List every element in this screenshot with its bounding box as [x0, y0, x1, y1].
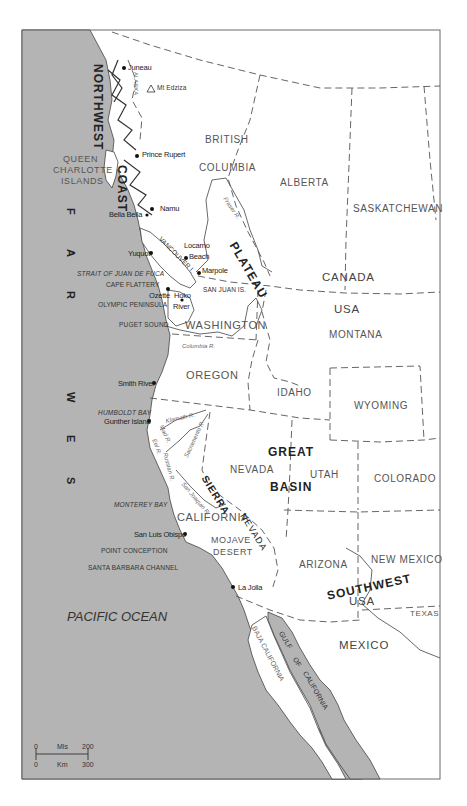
label-usa-south: USA — [349, 596, 375, 608]
marker-la-jolla — [231, 585, 235, 589]
far-west-letter-f: F — [65, 208, 76, 215]
label-san-juan-is: SAN JUAN IS. — [203, 287, 246, 294]
label-washington: WASHINGTON — [185, 320, 266, 331]
label-marpole: Marpole — [202, 267, 228, 275]
scale-miles-label: Mls — [57, 743, 68, 750]
label-texas: TEXAS — [410, 610, 439, 618]
label-namu: Namu — [160, 205, 179, 213]
label-yuquot: Yuquot — [128, 250, 150, 258]
marker-prince-rupert — [135, 154, 139, 158]
label-puget-sound: PUGET SOUND — [119, 322, 169, 329]
label-beach: Beach — [189, 253, 209, 261]
far-west-letter-s: S — [65, 477, 76, 484]
label-prince-rupert: Prince Rupert — [142, 151, 185, 159]
label-san-luis-obispo: San Luis Obispo — [134, 531, 186, 539]
label-coast: COAST — [116, 165, 128, 212]
label-colorado: COLORADO — [374, 474, 436, 484]
label-point-conception: POINT CONCEPTION — [101, 548, 168, 555]
scale-km-end: 300 — [82, 761, 94, 768]
label-mt-edziza: Mt Edziza — [157, 85, 186, 92]
label-british: BRITISH — [205, 135, 249, 145]
label-nevada: NEVADA — [230, 465, 274, 475]
label-strait-juan-de-fuca: STRAIT OF JUAN DE FUCA — [77, 271, 164, 278]
label-la-jolla: La Jolla — [238, 584, 262, 592]
label-northwest: NORTHWEST — [92, 64, 104, 150]
scale-miles-end: 200 — [82, 743, 94, 750]
far-west-letter-e: E — [65, 435, 76, 442]
label-hoko: Hoko — [174, 292, 191, 300]
label-alaska: ALASKA — [133, 72, 139, 95]
scale-miles-start: 0 — [34, 743, 38, 750]
label-mexico: MEXICO — [339, 640, 389, 652]
label-ozette: Ozette — [149, 292, 170, 300]
label-alberta: ALBERTA — [280, 178, 329, 188]
label-canada: CANADA — [322, 272, 375, 284]
marker-juneau — [122, 66, 126, 70]
label-utah: UTAH — [310, 470, 339, 480]
label-locarno: Locarno — [184, 242, 210, 250]
label-new-mexico: NEW MEXICO — [371, 555, 443, 565]
label-oregon: OREGON — [186, 370, 239, 381]
label-olympic-peninsula: OLYMPIC PENINSULA — [98, 302, 167, 309]
label-columbia-river: Columbia R. — [182, 343, 215, 349]
label-saskatchewan: SASKATCHEWAN — [353, 204, 443, 214]
label-charlotte: CHARLOTTE — [53, 166, 113, 175]
far-west-letter-w: W — [65, 392, 76, 402]
label-desert: DESERT — [213, 548, 253, 557]
label-pacific-ocean: PACIFIC OCEAN — [67, 610, 167, 623]
label-great: GREAT — [268, 446, 314, 458]
label-montana: MONTANA — [329, 330, 382, 340]
label-arizona: ARIZONA — [299, 560, 348, 570]
label-mojave: MOJAVE — [211, 536, 251, 545]
label-usa-north: USA — [334, 304, 360, 316]
label-juneau: Juneau — [128, 64, 151, 72]
label-gunther-island: Gunther Island — [104, 418, 150, 426]
label-idaho: IDAHO — [277, 388, 312, 398]
label-smith-river: Smith River — [118, 380, 155, 388]
label-bella-bella: Bella Bella — [109, 211, 142, 219]
marker-bella-bella — [145, 213, 148, 216]
label-river: River — [173, 303, 190, 311]
scale-km-label: Km — [57, 761, 68, 768]
label-queen: QUEEN — [63, 155, 98, 164]
far-west-letter-r: R — [65, 291, 76, 299]
label-humboldt-bay: HUMBOLDT BAY — [98, 410, 151, 417]
label-monterey-bay: MONTEREY BAY — [114, 502, 167, 509]
label-columbia: COLUMBIA — [199, 163, 256, 173]
marker-namu — [150, 207, 154, 211]
label-islands: ISLANDS — [61, 177, 104, 186]
label-cape-flattery: CAPE FLATTERY — [106, 282, 159, 289]
label-basin: BASIN — [270, 481, 312, 493]
marker-marpole — [197, 271, 201, 275]
label-wyoming: WYOMING — [354, 401, 408, 411]
far-west-letter-a: A — [65, 249, 76, 257]
scale-km-start: 0 — [34, 761, 38, 768]
label-santa-barbara-channel: SANTA BARBARA CHANNEL — [88, 565, 178, 572]
